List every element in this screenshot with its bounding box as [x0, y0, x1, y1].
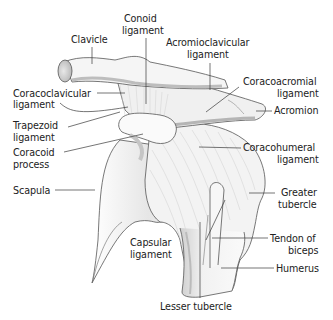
label-coracoacromial-ligament-line1: Coracoacromial: [243, 76, 316, 87]
label-acromion: Acromion: [274, 105, 318, 116]
label-coracoclavicular-ligament-line2: ligament: [13, 99, 55, 110]
label-coracoacromial-ligament-line2: ligament: [277, 88, 319, 99]
label-acromioclavicular-ligament-line1: Acromioclavicular: [166, 37, 249, 48]
label-tendon-of-biceps-line1: Tendon of: [270, 233, 316, 244]
label-lesser-tubercle: Lesser tubercle: [160, 301, 232, 312]
label-clavicle: Clavicle: [71, 34, 108, 45]
label-greater-tubercle-line1: Greater: [281, 187, 317, 198]
label-conoid-ligament-line2: ligament: [122, 25, 164, 36]
coracoid-process-shape: [119, 113, 177, 143]
label-acromioclavicular-ligament-line2: ligament: [187, 49, 229, 60]
label-humerus: Humerus: [276, 263, 319, 274]
label-scapula: Scapula: [13, 185, 50, 196]
label-conoid-ligament-line1: Conoid: [124, 13, 157, 24]
label-coracohumeral-ligament-line1: Coracohumeral: [243, 142, 315, 153]
label-coracoid-process-line2: process: [13, 159, 49, 170]
label-trapezoid-ligament-line2: ligament: [13, 132, 55, 143]
label-greater-tubercle-line2: tubercle: [278, 199, 317, 210]
label-coracoclavicular-ligament-line1: Coracoclavicular: [13, 88, 91, 99]
label-trapezoid-ligament-line1: Trapezoid: [13, 120, 58, 131]
label-coracohumeral-ligament-line2: ligament: [277, 154, 319, 165]
clavicle-end: [58, 60, 72, 82]
label-capsular-ligament-line1: Capsular: [130, 237, 171, 248]
label-capsular-ligament-line2: ligament: [130, 249, 172, 260]
label-coracoid-process-line1: Coracoid: [13, 147, 55, 158]
label-tendon-of-biceps-line2: biceps: [288, 245, 318, 256]
